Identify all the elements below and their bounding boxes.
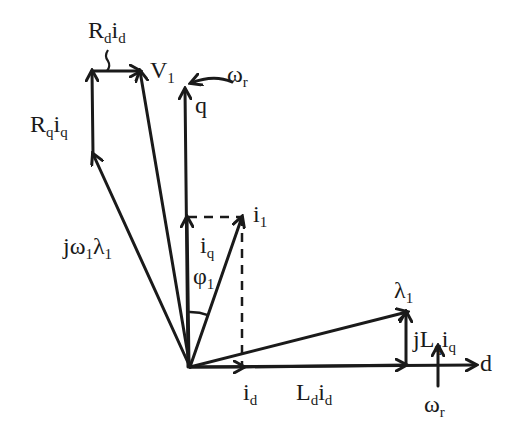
label-subscript: 1 xyxy=(406,290,414,306)
vector-v-1 xyxy=(140,71,190,367)
vector-lambda-1 xyxy=(190,312,407,367)
label-subscript: q xyxy=(46,124,54,140)
label-i-q: iq xyxy=(200,233,214,257)
label-symbol: i xyxy=(253,201,260,227)
vector-l-d-i-d xyxy=(244,365,406,367)
label-symbol: i xyxy=(442,326,449,352)
label-lambda-1: λ1 xyxy=(394,278,413,302)
label-subscript: d xyxy=(104,30,112,46)
label-subscript: q xyxy=(60,124,68,140)
label-symbol: R xyxy=(30,111,46,137)
label-symbol: R xyxy=(88,17,104,43)
label-leader-r-d-i-d xyxy=(106,50,109,71)
label-symbol: d xyxy=(480,350,492,376)
label-i-d: id xyxy=(243,380,257,404)
label-subscript: 1 xyxy=(105,246,113,262)
rotation-arrow-omega-r-top xyxy=(191,78,232,83)
label-subscript: r xyxy=(243,74,248,90)
label-symbol: i xyxy=(318,379,325,405)
label-subscript: q xyxy=(207,245,215,261)
label-r-q-i-q: Rqiq xyxy=(30,112,68,136)
label-subscript: q xyxy=(449,339,457,355)
label-i-1: i1 xyxy=(253,202,267,226)
label-j-omega-1-lambda-1: jω1λ1 xyxy=(63,234,112,258)
label-r-d-i-d: Rdid xyxy=(88,18,126,42)
label-subscript: 1 xyxy=(207,276,215,292)
label-symbol: q xyxy=(195,92,207,118)
phasor-diagram: RdidV1ωrqRqiqjω1λ1i1iqφ1λ1jLqiqdidLdidωr xyxy=(0,0,521,431)
vector-i-1 xyxy=(190,217,242,367)
label-subscript: 1 xyxy=(85,246,93,262)
label-l-d-i-d: Ldid xyxy=(296,380,332,404)
label-omega-r-top: ωr xyxy=(227,62,248,86)
label-jl-q-i-q: jLqiq xyxy=(413,327,456,351)
label-v-1: V1 xyxy=(150,58,175,82)
label-subscript: d xyxy=(118,30,126,46)
label-subscript: d xyxy=(325,392,333,408)
vector-r-q-i-q xyxy=(92,71,93,154)
label-symbol: i xyxy=(243,379,250,405)
label-q: q xyxy=(195,93,207,117)
label-subscript: r xyxy=(440,404,445,420)
label-symbol: φ xyxy=(193,263,207,289)
label-d: d xyxy=(480,351,492,375)
label-symbol: λ xyxy=(394,277,406,303)
label-symbol: jω xyxy=(63,233,85,259)
label-symbol: i xyxy=(200,232,207,258)
label-phi-1: φ1 xyxy=(193,264,214,288)
label-symbol: L xyxy=(296,379,311,405)
label-symbol: ω xyxy=(424,391,440,417)
angle-arc-phi-1 xyxy=(189,312,209,315)
label-symbol: ω xyxy=(227,61,243,87)
label-symbol: jL xyxy=(413,326,434,352)
angle-arc-phi-1 xyxy=(189,312,209,315)
label-omega-r-bottom: ωr xyxy=(424,392,445,416)
label-subscript: 1 xyxy=(167,70,175,86)
label-subscript: d xyxy=(250,392,258,408)
label-symbol: λ xyxy=(93,233,105,259)
label-subscript: q xyxy=(434,339,442,355)
label-subscript: 1 xyxy=(260,214,268,230)
label-symbol: V xyxy=(150,57,167,83)
